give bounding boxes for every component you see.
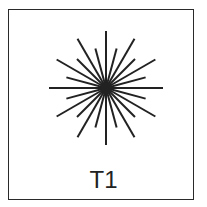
star-center <box>100 82 112 94</box>
figure-label: T1 <box>0 168 207 192</box>
